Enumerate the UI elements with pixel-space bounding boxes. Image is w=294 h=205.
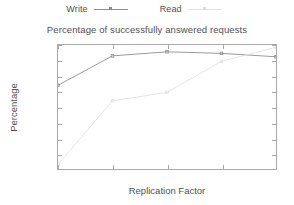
y-tick-right-100 <box>272 45 276 46</box>
y-axis-title-text: Percentage <box>8 83 19 132</box>
chart-canvas: Write Read Percentage of successfully an… <box>0 0 294 205</box>
y-tick-95 <box>58 61 62 62</box>
legend-label-write: Write <box>66 4 87 14</box>
y-tick-right-90 <box>272 77 276 78</box>
x-tick-5 <box>113 165 114 169</box>
legend-line-sample-read <box>188 5 222 14</box>
y-tick-right-80 <box>272 108 276 109</box>
x-axis-title: Replication Factor <box>57 185 277 196</box>
y-tick-85 <box>58 92 62 93</box>
legend-line-sample-write <box>94 5 128 14</box>
y-tick-80 <box>58 108 62 109</box>
plot-area: 6065707580859095100357911 <box>57 44 277 170</box>
y-tick-right-65 <box>272 155 276 156</box>
series-line-read <box>58 47 276 164</box>
x-tick-9 <box>223 165 224 169</box>
y-tick-right-70 <box>272 140 276 141</box>
chart-legend: Write Read <box>0 1 294 17</box>
y-tick-right-85 <box>272 92 276 93</box>
y-tick-70 <box>58 140 62 141</box>
y-axis-title: Percentage <box>6 44 20 170</box>
x-tick-top-7 <box>168 45 169 49</box>
series-line-write <box>58 52 276 85</box>
y-tick-right-95 <box>272 61 276 62</box>
series-lines <box>58 45 276 169</box>
legend-entry-write: Write <box>66 4 133 14</box>
legend-entry-read: Read <box>160 4 228 14</box>
plot-inner: 6065707580859095100357911 <box>58 45 276 169</box>
y-tick-65 <box>58 155 62 156</box>
x-tick-7 <box>168 165 169 169</box>
y-tick-75 <box>58 124 62 125</box>
x-tick-3 <box>58 165 59 169</box>
x-tick-top-9 <box>223 45 224 49</box>
chart-title: Percentage of successfully answered requ… <box>0 24 294 35</box>
x-tick-top-3 <box>58 45 59 49</box>
y-tick-right-75 <box>272 124 276 125</box>
x-tick-top-5 <box>113 45 114 49</box>
legend-label-read: Read <box>160 4 182 14</box>
y-tick-90 <box>58 77 62 78</box>
